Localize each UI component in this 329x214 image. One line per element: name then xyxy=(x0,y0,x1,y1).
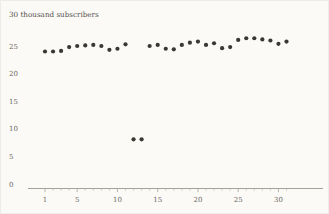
x-tick-label: 20 xyxy=(193,196,202,204)
x-tick-label: 15 xyxy=(153,196,162,204)
data-point xyxy=(148,44,152,48)
data-point xyxy=(204,43,208,47)
y-tick-label: 5 xyxy=(9,153,13,161)
y-axis-tick-labels: 0510152025 xyxy=(9,43,18,189)
data-point xyxy=(260,37,264,41)
data-point xyxy=(67,45,71,49)
data-point xyxy=(228,45,232,49)
x-tick-label: 1 xyxy=(43,196,47,204)
data-point xyxy=(99,44,103,48)
data-point xyxy=(123,42,127,46)
data-point xyxy=(220,46,224,50)
data-point xyxy=(156,43,160,47)
data-point xyxy=(91,43,95,47)
x-tick-label: 25 xyxy=(234,196,243,204)
data-point xyxy=(212,41,216,45)
x-tick-label: 10 xyxy=(113,196,122,204)
y-tick-label: 20 xyxy=(9,70,18,78)
data-point xyxy=(115,47,119,51)
data-point xyxy=(131,137,135,141)
x-axis-tick-labels: 151015202530 xyxy=(43,196,283,204)
x-tick-label: 5 xyxy=(75,196,79,204)
x-axis-minor-ticks xyxy=(45,189,287,193)
data-point xyxy=(188,41,192,45)
data-point xyxy=(172,47,176,51)
data-point xyxy=(43,49,47,53)
data-point xyxy=(59,49,63,53)
data-point xyxy=(252,36,256,40)
y-tick-label: 15 xyxy=(9,98,18,106)
data-point xyxy=(140,137,144,141)
y-tick-label: 10 xyxy=(9,125,18,133)
data-point xyxy=(276,42,280,46)
y-axis-label: 30 thousand subscribers xyxy=(9,10,99,19)
data-point-group xyxy=(43,36,289,141)
data-point xyxy=(244,36,248,40)
data-point xyxy=(164,47,168,51)
x-tick-label: 30 xyxy=(274,196,283,204)
data-point xyxy=(268,38,272,42)
data-point xyxy=(83,43,87,47)
data-point xyxy=(107,48,111,52)
data-point xyxy=(75,44,79,48)
data-point xyxy=(236,38,240,42)
scatter-plot: 30 thousand subscribers 0510152025 15101… xyxy=(1,1,329,214)
data-point xyxy=(51,49,55,53)
y-axis-label-text: 30 thousand subscribers xyxy=(9,10,99,19)
data-point xyxy=(180,43,184,47)
y-tick-label: 25 xyxy=(9,43,18,51)
data-point xyxy=(284,39,288,43)
chart-card: 30 thousand subscribers 0510152025 15101… xyxy=(0,0,329,214)
y-tick-label: 0 xyxy=(9,181,13,189)
data-point xyxy=(196,39,200,43)
